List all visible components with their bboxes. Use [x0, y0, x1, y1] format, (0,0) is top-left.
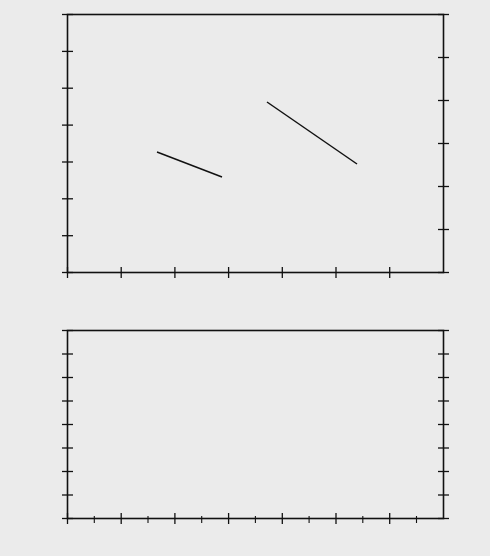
bottom-x-axis-minor-ticks	[94, 516, 416, 523]
top-plot-frame	[68, 15, 444, 273]
nominal-exchange-rate-annotation	[267, 102, 357, 164]
real-exchange-rate-annotation	[157, 152, 222, 177]
exchange-rates-panel	[62, 15, 449, 279]
chart-svg	[0, 0, 490, 556]
figure-container	[0, 0, 490, 556]
bottom-plot-frame	[68, 331, 444, 519]
current-account-panel	[62, 331, 449, 525]
real-annotation-leader-line	[157, 152, 222, 177]
nominal-annotation-leader-line	[267, 102, 357, 164]
